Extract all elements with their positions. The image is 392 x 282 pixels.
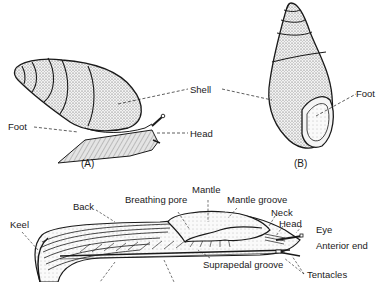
label-mantle: Mantle bbox=[192, 185, 221, 195]
label-mantle-groove: Mantle groove bbox=[227, 195, 287, 205]
label-suprapedal-groove: Suprapedal groove bbox=[203, 260, 283, 270]
label-neck: Neck bbox=[271, 208, 293, 218]
label-tentacles: Tentacles bbox=[307, 270, 347, 280]
panel-b-snail-shell bbox=[222, 3, 356, 148]
label-eye: Eye bbox=[316, 225, 332, 235]
label-head-c: Head bbox=[279, 219, 302, 229]
label-back: Back bbox=[73, 202, 94, 212]
label-foot-a: Foot bbox=[8, 122, 27, 132]
label-foot-b: Foot bbox=[356, 89, 375, 99]
caption-a: (A) bbox=[81, 159, 94, 169]
label-shell: Shell bbox=[190, 85, 211, 95]
caption-b: (B) bbox=[294, 159, 307, 169]
label-keel: Keel bbox=[10, 220, 29, 230]
label-anterior-end: Anterior end bbox=[316, 241, 368, 251]
snail-shell bbox=[14, 59, 141, 131]
label-breathing-pore: Breathing pore bbox=[125, 195, 187, 205]
snail-foot bbox=[58, 130, 158, 163]
label-head-a: Head bbox=[190, 129, 213, 139]
panel-a-snail bbox=[14, 58, 188, 163]
